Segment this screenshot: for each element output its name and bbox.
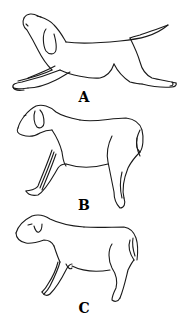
dog-posture-figure: A B C	[0, 0, 189, 327]
panel-label-b: B	[69, 198, 99, 212]
panel-label-a: A	[69, 90, 99, 104]
dog-a-drawing	[13, 14, 176, 90]
dog-b-drawing	[17, 105, 143, 208]
panel-label-c: C	[69, 301, 99, 315]
dog-drawings	[0, 0, 189, 327]
dog-c-drawing	[16, 215, 138, 301]
